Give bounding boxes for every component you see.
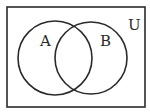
universe-rectangle xyxy=(7,7,145,107)
venn-diagram: A B U xyxy=(0,0,150,112)
set-b-circle xyxy=(55,22,127,94)
set-a-label: A xyxy=(39,32,51,50)
universe-label: U xyxy=(128,16,141,34)
set-b-label: B xyxy=(100,32,111,50)
